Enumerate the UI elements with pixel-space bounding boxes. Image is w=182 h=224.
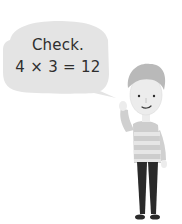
illustration: Check. 4 × 3 = 12 bbox=[0, 0, 182, 224]
boy-character bbox=[119, 64, 167, 220]
speech-text-line-1: Check. bbox=[8, 36, 108, 54]
speech-text-line-2: 4 × 3 = 12 bbox=[8, 58, 108, 76]
scene-graphic bbox=[0, 0, 182, 224]
